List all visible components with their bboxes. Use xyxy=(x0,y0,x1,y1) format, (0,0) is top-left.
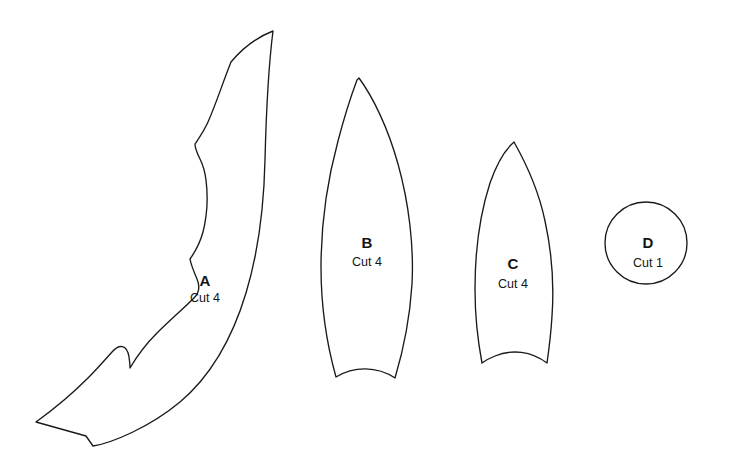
pattern-piece-b-outline[interactable] xyxy=(321,78,412,378)
pattern-piece-d-letter: D xyxy=(643,234,654,251)
pattern-piece-c-cut-label: Cut 4 xyxy=(498,277,528,291)
pattern-piece-d-cut-label: Cut 1 xyxy=(633,256,663,270)
pattern-sheet: A Cut 4 B Cut 4 C Cut 4 D Cut 1 xyxy=(0,0,729,472)
pattern-piece-c-outline[interactable] xyxy=(475,142,553,363)
pattern-piece-a-outline[interactable] xyxy=(36,31,273,446)
pattern-piece-c-letter: C xyxy=(508,255,519,272)
pattern-diagram: A Cut 4 B Cut 4 C Cut 4 D Cut 1 xyxy=(0,0,729,472)
pattern-piece-b-cut-label: Cut 4 xyxy=(352,255,382,269)
pattern-piece-b-letter: B xyxy=(362,234,373,251)
pattern-piece-a-letter: A xyxy=(200,272,211,289)
pattern-piece-a-cut-label: Cut 4 xyxy=(190,291,220,305)
